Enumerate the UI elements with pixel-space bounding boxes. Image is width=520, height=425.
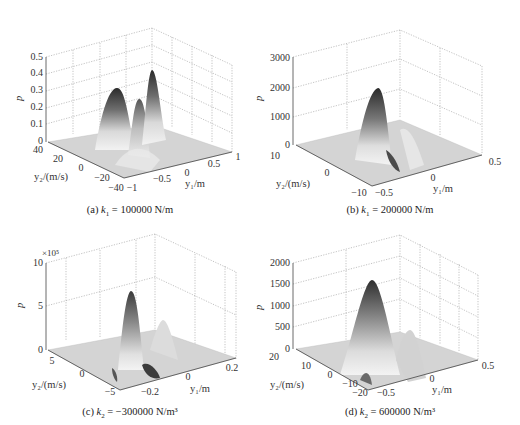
- svg-text:1000: 1000: [270, 111, 290, 122]
- svg-text:0.5: 0.5: [31, 51, 44, 62]
- surface-plot-d: 0 500 1000 1500 2000 p 20 10 0 −10 −20 y…: [260, 220, 520, 405]
- svg-text:1000: 1000: [270, 300, 290, 311]
- caption-a: (a) k1 = 100000 N/m: [60, 204, 200, 218]
- svg-text:−40: −40: [108, 182, 124, 193]
- subplot-b: 0 1000 2000 3000 p 10 0 −10 y₂/(m/s) −0.…: [260, 0, 520, 200]
- svg-text:0: 0: [430, 373, 435, 384]
- svg-text:2000: 2000: [270, 82, 290, 93]
- z-tick-labels: 0 500 1000 1500 2000: [270, 257, 290, 354]
- svg-text:0: 0: [285, 343, 290, 354]
- caption-c: (c) k2 = −300000 N/m³: [60, 406, 200, 420]
- caption-d: (d) k2 = 600000 N/m³: [320, 406, 460, 420]
- surface-plot-b: 0 1000 2000 3000 p 10 0 −10 y₂/(m/s) −0.…: [260, 0, 520, 200]
- surface-plot-c: ×10⁵ 0 5 10 p 5 0 −5 y₂: [0, 220, 260, 405]
- z-tick-labels: 0 5 10: [33, 257, 43, 355]
- svg-text:10: 10: [301, 360, 311, 371]
- svg-text:2000: 2000: [270, 257, 290, 268]
- svg-text:0: 0: [431, 172, 436, 183]
- svg-text:0.5: 0.5: [482, 360, 495, 371]
- z-axis-label: p: [14, 303, 25, 309]
- svg-text:5: 5: [38, 300, 43, 311]
- z-multiplier: ×10⁵: [42, 248, 59, 258]
- z-tick-labels: 0 1000 2000 3000: [270, 52, 290, 150]
- svg-text:20: 20: [269, 351, 279, 362]
- y1-axis-label: y₁/m: [190, 383, 210, 394]
- y1-axis-label: y₁/m: [432, 384, 452, 395]
- peak-right: [142, 70, 166, 145]
- caption-b: (b) k1 = 200000 N/m: [320, 204, 460, 218]
- svg-text:5: 5: [50, 355, 55, 366]
- z-axis-label: p: [253, 305, 264, 311]
- svg-text:0: 0: [186, 371, 191, 382]
- y1-axis-label: y₁/m: [185, 178, 205, 189]
- z-axis-label: p: [13, 96, 24, 102]
- svg-text:0: 0: [80, 368, 85, 379]
- svg-text:−5: −5: [105, 386, 116, 397]
- svg-text:0.5: 0.5: [208, 158, 221, 169]
- svg-text:−20: −20: [352, 387, 368, 398]
- svg-text:0.4: 0.4: [31, 67, 44, 78]
- svg-text:0: 0: [328, 369, 333, 380]
- svg-text:0: 0: [325, 167, 330, 178]
- svg-text:0: 0: [285, 139, 290, 150]
- y2-axis-label: y₂/(m/s): [32, 379, 66, 391]
- z-axis-label: p: [253, 96, 264, 102]
- svg-text:0: 0: [185, 167, 190, 178]
- svg-text:−0.5: −0.5: [153, 173, 171, 184]
- svg-text:−0.5: −0.5: [377, 387, 395, 398]
- svg-text:10: 10: [33, 257, 43, 268]
- svg-text:−0.5: −0.5: [375, 187, 393, 198]
- subplot-a: 0 0.1 0.2 0.3 0.4 0.5 p 40 20 0 −20 −40 …: [0, 0, 260, 200]
- svg-text:0: 0: [38, 344, 43, 355]
- svg-text:0.3: 0.3: [31, 84, 44, 95]
- svg-text:0.5: 0.5: [489, 156, 502, 167]
- svg-text:0: 0: [79, 162, 84, 173]
- svg-text:−0.2: −0.2: [141, 386, 159, 397]
- y1-axis-label: y₁/m: [433, 183, 453, 194]
- subplot-c: ×10⁵ 0 5 10 p 5 0 −5 y₂: [0, 220, 260, 405]
- svg-text:0.2: 0.2: [31, 101, 44, 112]
- peak-main: [340, 280, 400, 375]
- svg-text:1: 1: [236, 151, 241, 162]
- svg-text:40: 40: [33, 144, 43, 155]
- subplot-d: 0 500 1000 1500 2000 p 20 10 0 −10 −20 y…: [260, 220, 520, 405]
- svg-text:500: 500: [275, 321, 290, 332]
- surface-plot-a: 0 0.1 0.2 0.3 0.4 0.5 p 40 20 0 −20 −40 …: [0, 0, 260, 200]
- y2-axis-label: y₂/(m/s): [34, 171, 68, 183]
- svg-text:0.1: 0.1: [31, 118, 44, 129]
- svg-text:1500: 1500: [270, 278, 290, 289]
- z-tick-labels: 0 0.1 0.2 0.3 0.4 0.5: [31, 51, 44, 146]
- peak-main: [118, 291, 144, 370]
- svg-text:3000: 3000: [270, 52, 290, 63]
- svg-text:−1: −1: [127, 182, 138, 193]
- svg-text:−10: −10: [351, 187, 367, 198]
- peak-left: [95, 88, 135, 150]
- svg-text:20: 20: [53, 153, 63, 164]
- svg-text:10: 10: [270, 150, 280, 161]
- y2-axis-label: y₂/(m/s): [270, 379, 304, 391]
- svg-text:0.2: 0.2: [226, 362, 239, 373]
- y2-axis-label: y₂/(m/s): [276, 178, 310, 190]
- peak-main: [355, 88, 392, 165]
